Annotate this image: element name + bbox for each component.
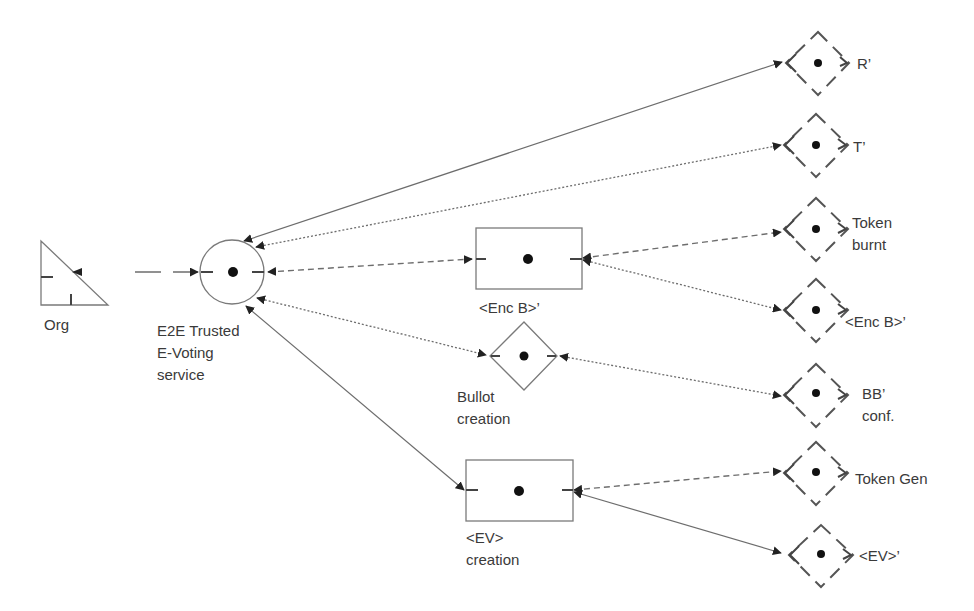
org-label: Org — [44, 316, 69, 333]
node-ev-prime[interactable]: <EV>’ — [789, 525, 900, 587]
right-chevron-icon — [840, 57, 847, 66]
node-bullot-creation[interactable]: Bullot creation — [457, 322, 557, 427]
edge-ev-creation-token-gen — [574, 471, 781, 490]
center-dot — [228, 267, 238, 277]
node-ev-creation[interactable]: <EV> creation — [466, 460, 573, 568]
e-voting-diagram: Org E2E Trusted E-Voting service <Enc B>… — [0, 0, 974, 611]
bullot-label: Bullot creation — [457, 388, 510, 427]
edges — [135, 62, 782, 553]
center-dot — [514, 486, 524, 496]
edge-enc-b-enc-b-prime — [583, 260, 781, 310]
node-org[interactable]: Org — [41, 241, 108, 333]
edge-service-bullot — [257, 298, 486, 355]
center-dot — [520, 352, 529, 361]
enc-b-prime-label: <Enc B>’ — [845, 313, 906, 330]
center-dot — [812, 306, 820, 314]
node-t-prime[interactable]: T’ — [784, 114, 866, 177]
edge-ev-creation-ev-prime — [574, 492, 781, 553]
token-gen-label: Token Gen — [855, 470, 928, 487]
node-token-burnt[interactable]: Token burnt — [784, 198, 896, 261]
center-dot — [817, 550, 825, 558]
node-e2e-service[interactable]: E2E Trusted E-Voting service — [157, 240, 264, 383]
edge-service-enc-b — [268, 259, 472, 272]
node-r-prime[interactable]: R’ — [786, 32, 871, 95]
ev-creation-label: <EV> creation — [466, 529, 519, 568]
bb-conf-label: BB’ conf. — [862, 385, 895, 424]
edge-service-r-prime — [244, 62, 782, 241]
center-dot — [812, 389, 820, 397]
center-dot — [812, 225, 820, 233]
center-dot — [523, 254, 533, 264]
center-dot — [812, 141, 820, 149]
service-label: E2E Trusted E-Voting service — [157, 322, 244, 383]
edge-service-ev-creation — [246, 306, 464, 490]
ev-prime-label: <EV>’ — [859, 547, 900, 564]
enc-b-label: <Enc B>’ — [479, 299, 540, 316]
edge-enc-b-token-burnt — [583, 232, 781, 258]
r-prime-label: R’ — [857, 55, 871, 72]
t-prime-label: T’ — [853, 138, 866, 155]
node-enc-b-prime[interactable]: <Enc B>’ — [784, 279, 906, 342]
node-enc-b[interactable]: <Enc B>’ — [476, 228, 582, 316]
center-dot — [814, 59, 822, 67]
token-burnt-label: Token burnt — [852, 214, 896, 253]
left-chevron-icon — [787, 54, 796, 72]
node-bb-conf[interactable]: BB’ conf. — [784, 364, 895, 427]
node-token-gen[interactable]: Token Gen — [784, 442, 928, 505]
center-dot — [812, 468, 820, 476]
edge-bullot-bb-conf — [560, 356, 781, 396]
